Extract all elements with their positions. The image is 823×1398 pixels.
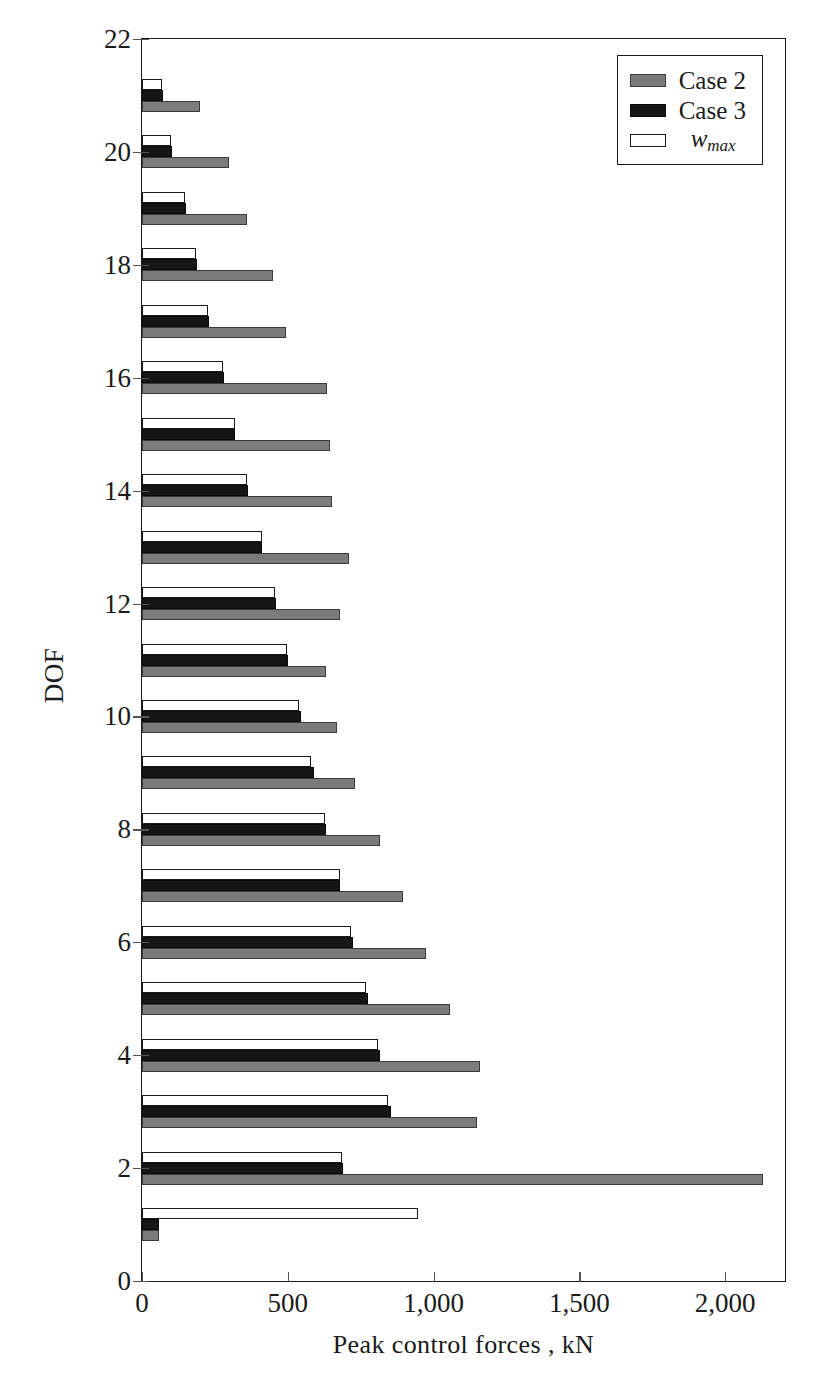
- y-tick-label-12: 12: [104, 590, 131, 617]
- bar-wmax-dof-2: [142, 1152, 342, 1163]
- y-tick-label-2: 2: [118, 1155, 132, 1182]
- x-tick-label-2,000: 2,000: [695, 1290, 756, 1317]
- y-tick-inner-14: [142, 491, 149, 492]
- bar-case3-dof-13: [142, 542, 262, 553]
- y-tick-0: [133, 1281, 142, 1282]
- bar-case3-dof-3: [142, 1106, 391, 1117]
- bar-case2-dof-13: [142, 553, 349, 564]
- y-tick-inner-8: [142, 829, 149, 830]
- bar-case3-dof-9: [142, 767, 314, 778]
- bar-case3-dof-21: [142, 90, 163, 101]
- bar-wmax-dof-19: [142, 192, 185, 203]
- x-tick-inner-0: [142, 1273, 143, 1281]
- y-tick-label-18: 18: [104, 251, 131, 278]
- bar-case3-dof-2: [142, 1163, 343, 1174]
- bar-wmax-dof-1: [142, 1208, 418, 1219]
- y-tick-inner-22: [142, 39, 149, 40]
- y-tick-label-8: 8: [118, 816, 132, 843]
- bar-case2-dof-1: [142, 1230, 159, 1241]
- bar-case2-dof-4: [142, 1061, 480, 1072]
- x-tick-label-0: 0: [135, 1290, 149, 1317]
- legend-label-case3: Case 3: [679, 98, 746, 123]
- y-tick-label-22: 22: [104, 26, 131, 53]
- y-tick-label-0: 0: [118, 1268, 132, 1295]
- bar-wmax-dof-10: [142, 700, 299, 711]
- plot-area: 0246810121416182022 05001,0001,5002,000 …: [141, 38, 786, 1282]
- y-tick-16: [133, 378, 142, 379]
- bar-case3-dof-19: [142, 203, 186, 214]
- chart-legend: Case 2Case 3wmax: [617, 55, 763, 165]
- y-tick-inner-6: [142, 942, 149, 943]
- bar-case3-dof-10: [142, 711, 301, 722]
- y-tick-4: [133, 1055, 142, 1056]
- bar-case3-dof-6: [142, 937, 353, 948]
- bar-case3-dof-14: [142, 485, 248, 496]
- legend-label-case2: Case 2: [679, 68, 746, 93]
- bar-wmax-dof-11: [142, 644, 287, 655]
- bar-case3-dof-7: [142, 880, 340, 891]
- bar-case3-dof-4: [142, 1050, 380, 1061]
- bar-case2-dof-2: [142, 1174, 763, 1185]
- bar-case2-dof-14: [142, 496, 332, 507]
- bar-case3-dof-17: [142, 316, 209, 327]
- bar-case2-dof-12: [142, 609, 340, 620]
- y-tick-18: [133, 265, 142, 266]
- bar-wmax-dof-14: [142, 474, 247, 485]
- y-tick-label-20: 20: [104, 138, 131, 165]
- x-tick-inner-500: [288, 1273, 289, 1281]
- x-axis-title: Peak control forces , kN: [141, 1330, 786, 1360]
- bar-case2-dof-20: [142, 157, 229, 168]
- x-tick-label-1,500: 1,500: [549, 1290, 610, 1317]
- bars-layer: [142, 39, 785, 1281]
- legend-swatch-case3: [630, 104, 666, 117]
- y-tick-2: [133, 1168, 142, 1169]
- bar-case2-dof-9: [142, 778, 355, 789]
- bar-wmax-dof-3: [142, 1095, 388, 1106]
- x-tick-inner-1,000: [434, 1273, 435, 1281]
- legend-swatch-case2: [630, 74, 666, 87]
- y-tick-22: [133, 39, 142, 40]
- x-tick-label-1,000: 1,000: [403, 1290, 464, 1317]
- bar-case2-dof-15: [142, 440, 330, 451]
- bar-case3-dof-18: [142, 259, 197, 270]
- bar-case2-dof-8: [142, 835, 380, 846]
- bar-case2-dof-11: [142, 666, 326, 677]
- bar-case2-dof-7: [142, 891, 403, 902]
- bar-wmax-dof-9: [142, 756, 311, 767]
- bar-wmax-dof-8: [142, 813, 325, 824]
- y-tick-inner-12: [142, 604, 149, 605]
- bar-case2-dof-18: [142, 270, 273, 281]
- legend-label-wmax: wmax: [691, 126, 736, 154]
- bar-case3-dof-11: [142, 655, 288, 666]
- y-tick-6: [133, 942, 142, 943]
- y-tick-inner-4: [142, 1055, 149, 1056]
- y-tick-label-4: 4: [118, 1042, 132, 1069]
- bar-wmax-dof-17: [142, 305, 208, 316]
- y-tick-inner-2: [142, 1168, 149, 1169]
- y-axis-title: DOF: [39, 616, 70, 736]
- bar-wmax-dof-16: [142, 361, 223, 372]
- bar-case2-dof-3: [142, 1117, 477, 1128]
- bar-wmax-dof-5: [142, 982, 366, 993]
- bar-wmax-dof-7: [142, 869, 340, 880]
- legend-item-case2: Case 2: [630, 65, 746, 95]
- x-tick-label-500: 500: [268, 1290, 309, 1317]
- bar-case2-dof-10: [142, 722, 337, 733]
- y-tick-inner-10: [142, 716, 149, 717]
- legend-item-wmax: wmax: [630, 125, 746, 155]
- bar-case2-dof-21: [142, 101, 200, 112]
- y-tick-inner-18: [142, 265, 149, 266]
- y-tick-label-10: 10: [104, 703, 131, 730]
- y-tick-12: [133, 604, 142, 605]
- bar-case3-dof-5: [142, 993, 368, 1004]
- bar-wmax-dof-6: [142, 926, 351, 937]
- bar-case2-dof-6: [142, 948, 426, 959]
- bar-wmax-dof-21: [142, 79, 162, 90]
- y-tick-inner-16: [142, 378, 149, 379]
- bar-wmax-dof-12: [142, 587, 275, 598]
- bar-wmax-dof-4: [142, 1039, 378, 1050]
- bar-wmax-dof-20: [142, 135, 171, 146]
- bar-case2-dof-17: [142, 327, 286, 338]
- legend-item-case3: Case 3: [630, 95, 746, 125]
- y-tick-label-16: 16: [104, 364, 131, 391]
